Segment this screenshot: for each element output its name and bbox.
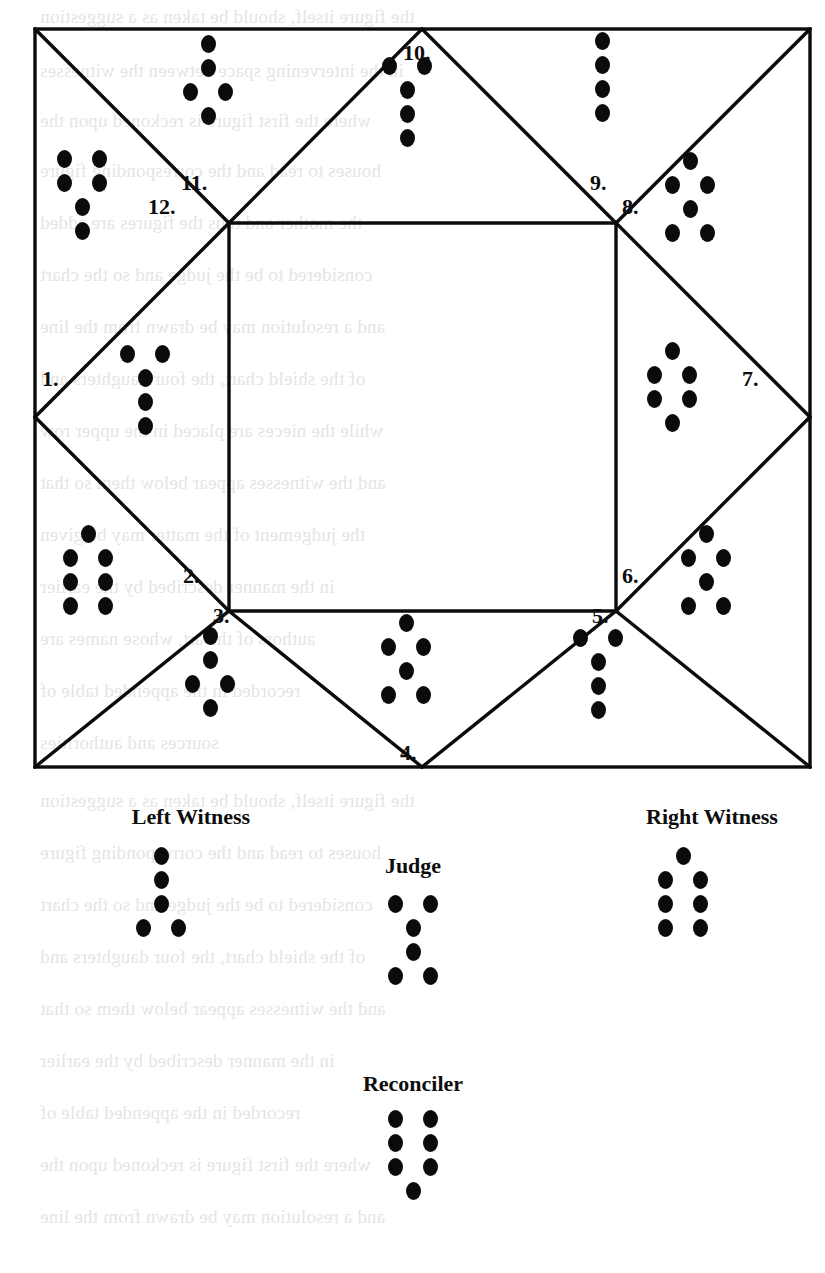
figure-dot	[185, 675, 200, 693]
figure-dot	[658, 919, 673, 937]
figure-row-1	[644, 340, 700, 364]
figure-dot	[647, 366, 662, 384]
figure-dot	[700, 176, 715, 194]
house-figure-12	[54, 148, 110, 244]
figure-row-2	[117, 367, 173, 391]
figure-dot	[406, 919, 421, 937]
figure-dot	[423, 895, 438, 913]
right-witness-label: Right Witness	[607, 806, 817, 828]
right-witness-figure	[655, 845, 711, 941]
figure-dot	[154, 847, 169, 865]
figure-row-3	[570, 675, 626, 699]
bleed-line: and a resolution may be drawn from the l…	[40, 1206, 385, 1228]
house-number-4: 4.	[400, 742, 417, 764]
figure-dot	[92, 174, 107, 192]
figure-row-3	[133, 893, 189, 917]
figure-row-3	[182, 673, 238, 697]
figure-dot	[683, 152, 698, 170]
house-number-7: 7.	[742, 368, 759, 390]
figure-dot	[138, 393, 153, 411]
figure-dot	[388, 1134, 403, 1152]
figure-row-2	[133, 869, 189, 893]
figure-dot	[388, 1110, 403, 1128]
figure-dot	[591, 653, 606, 671]
figure-row-1	[180, 33, 236, 57]
figure-dot	[400, 105, 415, 123]
judge-label: Judge	[338, 855, 488, 877]
figure-dot	[681, 597, 696, 615]
bleed-line: considered to be the judge and so the ch…	[40, 894, 373, 916]
figure-row-3	[644, 388, 700, 412]
figure-dot	[423, 1110, 438, 1128]
figure-dot	[658, 895, 673, 913]
figure-dot	[183, 83, 198, 101]
figure-row-2	[678, 547, 734, 571]
figure-dot	[406, 1182, 421, 1200]
figure-row-4	[180, 105, 236, 129]
figure-row-3	[385, 1156, 441, 1180]
figure-dot	[388, 895, 403, 913]
house-figure-7	[644, 340, 700, 436]
figure-dot	[665, 342, 680, 360]
figure-dot	[647, 390, 662, 408]
figure-row-1	[574, 30, 630, 54]
house-number-9: 9.	[590, 172, 607, 194]
house-number-12: 12.	[148, 196, 176, 218]
house-figure-1	[117, 343, 173, 439]
figure-row-1	[678, 523, 734, 547]
reconciler-figure	[385, 1108, 441, 1204]
reconciler-label: Reconciler	[323, 1073, 503, 1095]
figure-dot	[573, 629, 588, 647]
figure-row-1	[117, 343, 173, 367]
figure-dot	[75, 222, 90, 240]
figure-dot	[63, 549, 78, 567]
figure-dot	[716, 549, 731, 567]
house-figure-8	[662, 150, 718, 246]
figure-dot	[699, 573, 714, 591]
figure-dot	[81, 525, 96, 543]
figure-row-2	[574, 54, 630, 78]
figure-dot	[423, 1158, 438, 1176]
figure-row-1	[60, 523, 116, 547]
figure-row-4	[133, 917, 189, 941]
figure-dot	[57, 174, 72, 192]
figure-dot	[683, 200, 698, 218]
figure-row-4	[678, 595, 734, 619]
figure-row-4	[60, 595, 116, 619]
figure-dot	[381, 638, 396, 656]
figure-row-2	[182, 649, 238, 673]
figure-row-1	[385, 893, 441, 917]
figure-row-2	[54, 172, 110, 196]
figure-row-4	[570, 699, 626, 723]
figure-dot	[416, 638, 431, 656]
figure-dot	[423, 1134, 438, 1152]
figure-row-1	[570, 627, 626, 651]
figure-dot	[75, 198, 90, 216]
figure-dot	[591, 677, 606, 695]
figure-row-2	[385, 917, 441, 941]
figure-dot	[201, 59, 216, 77]
figure-row-1	[662, 150, 718, 174]
figure-row-4	[379, 127, 435, 151]
figure-row-4	[54, 220, 110, 244]
figure-row-2	[378, 636, 434, 660]
house-number-3: 3.	[213, 605, 230, 627]
figure-row-3	[54, 196, 110, 220]
figure-row-3	[60, 571, 116, 595]
figure-dot	[138, 369, 153, 387]
figure-dot	[665, 224, 680, 242]
figure-row-3	[574, 78, 630, 102]
figure-dot	[682, 366, 697, 384]
house-figure-4	[378, 612, 434, 708]
figure-dot	[388, 967, 403, 985]
figure-row-2	[655, 869, 711, 893]
judge-figure	[385, 893, 441, 989]
figure-dot	[98, 573, 113, 591]
figure-dot	[400, 81, 415, 99]
figure-dot	[381, 686, 396, 704]
house-figure-10	[379, 55, 435, 151]
figure-dot	[406, 943, 421, 961]
figure-dot	[595, 80, 610, 98]
left-witness-label: Left Witness	[86, 806, 296, 828]
figure-dot	[203, 699, 218, 717]
